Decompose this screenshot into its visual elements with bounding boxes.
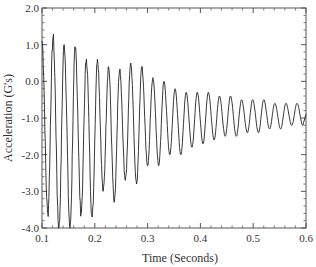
y-tick-label: 1.0: [25, 39, 39, 51]
y-axis: 2.01.00.0-1.0-2.0-3.0-4.0: [22, 2, 306, 234]
plot-border: [42, 8, 306, 228]
plot-area: [42, 8, 306, 228]
x-tick-label: 0.2: [88, 232, 102, 244]
y-tick-label: -2.0: [22, 149, 40, 161]
x-axis: 0.10.20.30.40.50.6: [35, 8, 313, 244]
x-tick-label: 0.3: [141, 232, 155, 244]
x-axis-title: Time (Seconds): [142, 251, 218, 265]
x-tick-label: 0.4: [194, 232, 208, 244]
x-tick-label: 0.1: [35, 232, 49, 244]
y-tick-label: -3.0: [22, 185, 40, 197]
acceleration-chart: 2.01.00.0-1.0-2.0-3.0-4.0 0.10.20.30.40.…: [0, 0, 316, 267]
y-tick-label: 2.0: [25, 2, 39, 14]
acceleration-series-line: [42, 34, 306, 228]
x-tick-label: 0.5: [246, 232, 260, 244]
y-axis-title: Acceleration (G's): [1, 74, 15, 162]
y-tick-label: -1.0: [22, 112, 40, 124]
y-tick-label: 0.0: [25, 75, 39, 87]
x-tick-label: 0.6: [299, 232, 313, 244]
